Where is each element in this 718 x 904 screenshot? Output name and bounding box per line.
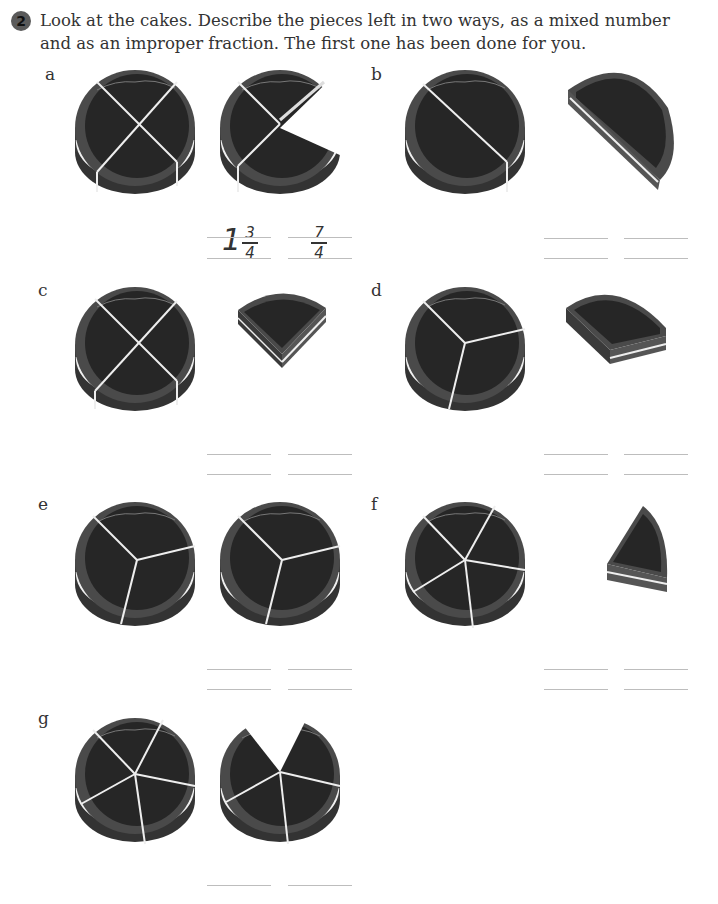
answer-d-mixed-line-top[interactable] <box>544 454 608 455</box>
answer-e-improper-line-top[interactable] <box>288 669 352 670</box>
answer-a-improper: 7 4 <box>307 225 331 265</box>
answer-e-improper-line-bottom[interactable] <box>288 689 352 690</box>
answer-e-mixed-line-top[interactable] <box>207 669 271 670</box>
answer-g-improper-line[interactable] <box>288 885 352 886</box>
answer-a-improper-line-top[interactable] <box>288 237 352 238</box>
answer-b-improper-line-top[interactable] <box>624 238 688 239</box>
answer-e-mixed-line-bottom[interactable] <box>207 689 271 690</box>
cake-a-whole <box>75 68 197 198</box>
answer-c-improper-line-top[interactable] <box>288 454 352 455</box>
answer-a-improper-line-bottom[interactable] <box>288 258 352 259</box>
cake-g-remaining <box>220 716 342 856</box>
answer-c-improper-line-bottom[interactable] <box>288 474 352 475</box>
cake-d-whole <box>405 285 527 415</box>
item-label-b: b <box>371 64 382 84</box>
question-number-badge: 2 <box>11 11 31 31</box>
item-label-f: f <box>371 494 377 514</box>
cake-c-quarter <box>236 288 330 368</box>
item-label-c: c <box>38 280 48 300</box>
answer-f-mixed-line-top[interactable] <box>544 669 608 670</box>
answer-b-mixed-line-top[interactable] <box>544 238 608 239</box>
answer-b-mixed-line-bottom[interactable] <box>544 258 608 259</box>
cake-f-fifth <box>607 506 671 592</box>
cake-e-whole-2 <box>220 500 342 630</box>
instruction-text: Look at the cakes. Describe the pieces l… <box>40 9 700 55</box>
answer-f-improper-line-bottom[interactable] <box>624 689 688 690</box>
answer-b-improper-line-bottom[interactable] <box>624 258 688 259</box>
answer-d-improper-line-top[interactable] <box>624 454 688 455</box>
cake-c-whole <box>75 285 197 415</box>
cake-g-whole <box>75 716 197 856</box>
answer-d-improper-line-bottom[interactable] <box>624 474 688 475</box>
item-label-e: e <box>38 494 48 514</box>
answer-g-mixed-line[interactable] <box>207 885 271 886</box>
cake-a-remaining <box>220 68 342 198</box>
item-label-a: a <box>45 64 55 84</box>
answer-a-mixed: 1 3 4 <box>222 222 262 262</box>
answer-f-improper-line-top[interactable] <box>624 669 688 670</box>
cake-e-whole-1 <box>75 500 197 630</box>
cake-b-whole <box>405 68 527 198</box>
answer-d-mixed-line-bottom[interactable] <box>544 474 608 475</box>
answer-a-mixed-line-top[interactable] <box>207 237 271 238</box>
answer-a-mixed-line-bottom[interactable] <box>207 258 271 259</box>
answer-c-mixed-line-bottom[interactable] <box>207 474 271 475</box>
answer-c-mixed-line-top[interactable] <box>207 454 271 455</box>
cake-b-half <box>568 68 678 193</box>
cake-f-whole <box>405 500 527 630</box>
item-label-d: d <box>371 280 382 300</box>
item-label-g: g <box>38 708 49 728</box>
answer-f-mixed-line-bottom[interactable] <box>544 689 608 690</box>
cake-d-third <box>566 288 674 368</box>
